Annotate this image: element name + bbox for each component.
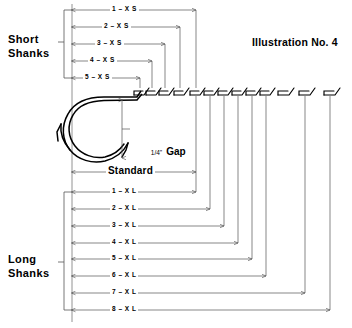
- hook-eye-marker: [324, 88, 340, 95]
- dimension-label-2-xl: 2 – X L: [110, 204, 138, 211]
- short-shanks-label-line1: Short: [8, 33, 39, 46]
- dimension-label-4-xs: 4 – X S: [88, 56, 117, 63]
- gap-annotation: 1/4"Gap: [133, 123, 186, 178]
- long-shanks-label-line1: Long: [8, 253, 36, 266]
- dimension-label-7-xl: 7 – X L: [110, 288, 138, 295]
- long-shanks-label-line2: Shanks: [8, 267, 50, 280]
- dimension-label-6-xl: 6 – X L: [110, 271, 138, 278]
- dimension-label-1-xl: 1 – X L: [110, 187, 138, 194]
- illustration-title: Illustration No. 4: [252, 36, 338, 48]
- hook-eye-marker: [232, 88, 247, 95]
- hook-eye-marker: [278, 88, 294, 95]
- dimension-label-4-xl: 4 – X L: [110, 238, 138, 245]
- hook-eye-marker: [174, 88, 189, 95]
- hook-eye-marker: [299, 88, 315, 95]
- dimension-label-8-xl: 8 – X L: [110, 305, 138, 312]
- dimension-label-1-xs: 1 – X S: [110, 5, 139, 12]
- hook-eye-marker: [204, 88, 219, 95]
- dimension-label-3-xs: 3 – X S: [95, 39, 124, 46]
- hook-eye-row: [134, 88, 340, 95]
- short-shanks-label-line2: Shanks: [8, 47, 50, 60]
- hook-eye-marker: [190, 88, 205, 95]
- hook-eye-marker: [159, 88, 174, 95]
- hook-eye-marker: [260, 88, 275, 95]
- gap-fraction-text: 1/4": [151, 149, 162, 156]
- dimension-label-2-xs: 2 – X S: [102, 22, 131, 29]
- dimension-label-5-xs: 5 – X S: [83, 73, 112, 80]
- hook-eye-marker: [218, 88, 233, 95]
- hook-eye-marker: [246, 88, 261, 95]
- dimension-label-5-xl: 5 – X L: [110, 254, 138, 261]
- main-hook-drawing: [57, 97, 137, 162]
- dimension-label-3-xl: 3 – X L: [110, 221, 138, 228]
- illustration-canvas: Illustration No. 4 Short Shanks Long Sha…: [0, 0, 352, 328]
- short-shanks-bracket: [58, 10, 72, 78]
- long-shanks-bracket: [58, 192, 72, 310]
- gap-word-text: Gap: [166, 146, 185, 157]
